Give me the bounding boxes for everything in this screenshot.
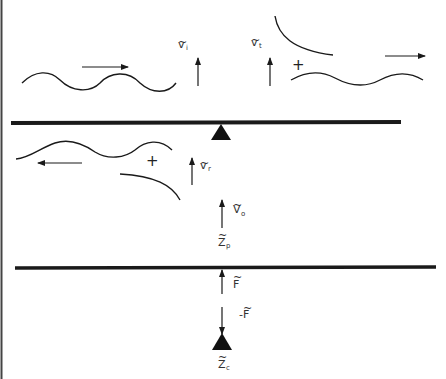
reflected-velocity-label: ~ v r: [200, 157, 211, 173]
transmitted-wave: [291, 73, 423, 85]
svg-text:v: v: [200, 159, 207, 172]
svg-text:c: c: [226, 364, 230, 372]
svg-text:v: v: [251, 36, 258, 49]
reaction-force-label: ~ -F: [239, 302, 252, 321]
svg-text:F: F: [233, 278, 239, 291]
svg-text:-F: -F: [239, 308, 249, 321]
upper-support-triangle: [211, 124, 231, 140]
plus-sign-bottom: +: [146, 152, 159, 170]
plate-velocity-label: ~ V o: [233, 199, 245, 218]
transmitted-nearfield-curve: [275, 16, 333, 55]
incident-wave: [22, 73, 176, 91]
upper-beam: [11, 122, 401, 123]
svg-text:t: t: [259, 42, 262, 50]
svg-text:p: p: [226, 242, 231, 250]
plate-impedance-label: ~ Z p: [218, 229, 231, 250]
svg-text:Z: Z: [218, 358, 226, 371]
incident-velocity-label: ~ v i: [178, 36, 188, 52]
svg-text:o: o: [241, 210, 245, 218]
svg-text:v: v: [178, 38, 185, 51]
diagram-canvas: ~ v i ~ v t + + ~ v r ~ V o ~ Z p: [0, 0, 446, 379]
reflected-nearfield-curve: [120, 174, 180, 200]
svg-text:i: i: [186, 44, 188, 52]
svg-text:V: V: [233, 203, 241, 216]
transmitted-velocity-label: ~ v t: [251, 34, 262, 50]
plus-sign-top: +: [292, 56, 305, 74]
lower-support-triangle: [212, 333, 232, 350]
lower-beam: [15, 267, 436, 268]
force-label: ~ F: [233, 271, 242, 291]
svg-text:r: r: [208, 165, 211, 173]
connection-impedance-label: ~ Z c: [218, 351, 230, 372]
svg-text:Z: Z: [218, 236, 226, 249]
